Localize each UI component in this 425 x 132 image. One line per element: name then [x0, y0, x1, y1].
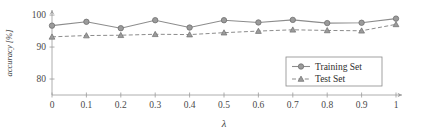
x-tick-label: 0.6	[252, 100, 264, 110]
data-point-marker	[221, 18, 226, 23]
x-tick-label: 0.8	[321, 100, 333, 110]
x-tick-label: 0.9	[356, 100, 368, 110]
data-point-marker	[393, 16, 398, 21]
x-tick-label: 0.3	[149, 100, 161, 110]
x-tick-label: 0.2	[115, 100, 127, 110]
data-point-marker	[153, 18, 158, 23]
y-axis-title: accuracy [%]	[4, 30, 14, 77]
x-tick-label: 0.7	[287, 100, 299, 110]
data-point-marker	[118, 26, 123, 31]
data-point-marker	[393, 21, 399, 26]
data-point-marker	[187, 25, 192, 30]
x-tick-label: 0	[50, 100, 55, 110]
data-point-marker	[256, 20, 261, 25]
y-tick-label: 80	[37, 74, 47, 84]
y-tick-label: 100	[32, 10, 47, 20]
x-tick-label: 0.1	[80, 100, 92, 110]
y-axis-ticks: 8090100	[32, 10, 55, 84]
legend-marker	[298, 64, 303, 69]
x-tick-label: 0.4	[184, 100, 196, 110]
legend-label: Training Set	[315, 62, 362, 72]
data-point-marker	[359, 20, 364, 25]
x-tick-label: 0.5	[218, 100, 230, 110]
series-layer	[49, 16, 399, 39]
data-point-marker	[290, 17, 295, 22]
series-training-set	[49, 16, 398, 31]
data-point-marker	[49, 23, 54, 28]
data-point-marker	[325, 20, 330, 25]
chart-canvas: 8090100 00.10.20.30.40.50.60.70.80.91 Tr…	[0, 0, 425, 132]
data-point-marker	[84, 19, 89, 24]
y-tick-label: 90	[37, 42, 47, 52]
accuracy-vs-lambda-chart: 8090100 00.10.20.30.40.50.60.70.80.91 Tr…	[0, 0, 425, 132]
x-tick-label: 1	[394, 100, 399, 110]
x-axis-title: λ	[221, 118, 227, 129]
legend-label: Test Set	[315, 74, 346, 84]
chart-legend: Training SetTest Set	[286, 57, 382, 86]
